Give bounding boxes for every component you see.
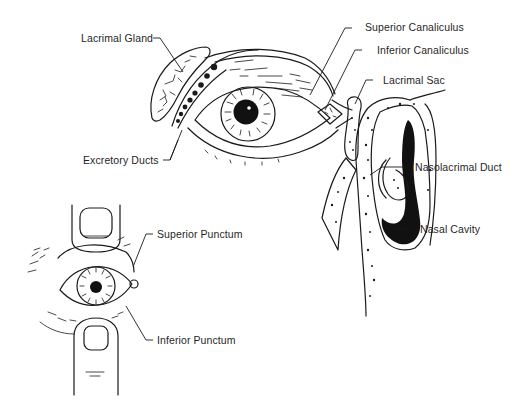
label-lacrimal-sac: Lacrimal Sac <box>383 74 445 86</box>
label-nasolacrimal-duct: Nasolacrimal Duct <box>415 161 502 173</box>
label-superior-canaliculus: Superior Canaliculus <box>365 21 464 33</box>
label-superior-punctum: Superior Punctum <box>157 228 243 240</box>
label-nasal-cavity: Nasal Cavity <box>420 223 480 235</box>
eye-ball-illustration <box>188 87 338 165</box>
lower-eye-illustration <box>28 237 138 334</box>
lacrimal-apparatus-diagram <box>0 0 524 411</box>
upper-eyelid-illustration <box>205 49 335 97</box>
lower-finger-illustration <box>74 318 118 395</box>
nasal-cross-section-illustration <box>322 90 445 316</box>
label-inferior-punctum: Inferior Punctum <box>157 334 236 346</box>
label-inferior-canaliculus: Inferior Canaliculus <box>377 44 469 56</box>
label-lacrimal-gland: Lacrimal Gland <box>81 32 153 44</box>
label-excretory-ducts: Excretory Ducts <box>83 154 159 166</box>
